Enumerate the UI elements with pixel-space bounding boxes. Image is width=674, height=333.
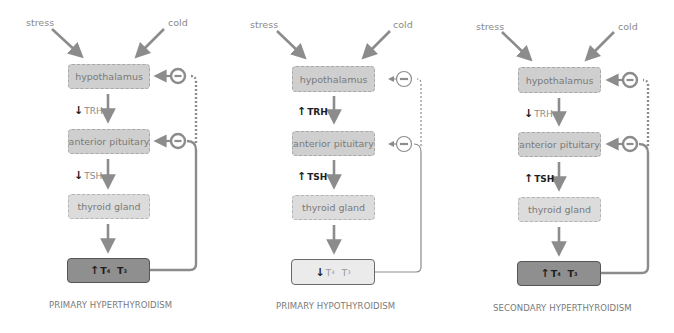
hypothalamus-node: hypothalamus bbox=[68, 64, 150, 89]
feedback-line-hypothalamus bbox=[643, 80, 648, 146]
tsh-change-icon: ↑ bbox=[524, 172, 533, 185]
stress-arrow bbox=[502, 32, 527, 56]
t4-t3-change-icon: ↓ bbox=[315, 266, 324, 279]
feedback-line-hypothalamus bbox=[417, 79, 421, 146]
stress-arrow bbox=[52, 29, 78, 53]
panel-secondary-hyperthyroidism: stress cold hypothalamus ↓TRH anterior p… bbox=[450, 0, 674, 333]
stress-label: stress bbox=[476, 21, 504, 32]
t4-t3-output-node: ↑T4T3 bbox=[517, 261, 601, 286]
anterior-pituitary-node: anterior pituitary bbox=[68, 129, 150, 154]
flow-arrows bbox=[0, 0, 230, 333]
thyroid-gland-node: thyroid gland bbox=[292, 195, 375, 220]
hypothalamus-node: hypothalamus bbox=[518, 67, 601, 93]
panel-caption: SECONDARY HYPERTHYROIDISM bbox=[493, 303, 632, 313]
cold-label: cold bbox=[618, 21, 638, 32]
trh-label: ↑TRH bbox=[297, 105, 328, 118]
thyroid-gland-node: thyroid gland bbox=[518, 197, 601, 222]
panel-primary-hypothyroidism: stress cold hypothalamus ↑TRH anterior p… bbox=[230, 0, 450, 333]
t4-t3-change-icon: ↑ bbox=[540, 267, 549, 280]
stress-label: stress bbox=[250, 19, 278, 30]
cold-label: cold bbox=[393, 19, 413, 30]
panel-primary-hyperthyroidism: stress cold hypothalamus ↓TRH anterior p… bbox=[0, 0, 230, 333]
trh-change-icon: ↓ bbox=[524, 107, 533, 120]
tsh-change-icon: ↓ bbox=[74, 169, 83, 182]
anterior-pituitary-node: anterior pituitary bbox=[292, 131, 375, 156]
cold-arrow bbox=[367, 31, 390, 54]
cold-arrow bbox=[140, 29, 164, 53]
t4-t3-output-node: ↓T4T3 bbox=[291, 259, 375, 285]
thyroid-gland-node: thyroid gland bbox=[68, 194, 150, 219]
panel-caption: PRIMARY HYPERTHYROIDISM bbox=[49, 300, 172, 310]
cold-label: cold bbox=[168, 17, 188, 28]
t4-t3-change-icon: ↑ bbox=[90, 264, 99, 277]
feedback-line-pituitary bbox=[375, 144, 421, 272]
t4-t3-output-node: ↑T4T3 bbox=[67, 258, 150, 283]
stress-label: stress bbox=[26, 17, 54, 28]
tsh-label: ↑TSH bbox=[524, 172, 554, 185]
feedback-line-pituitary bbox=[149, 141, 196, 270]
tsh-change-icon: ↑ bbox=[297, 170, 306, 183]
trh-label: ↓TRH bbox=[524, 107, 553, 120]
tsh-label: ↓TSH bbox=[74, 169, 102, 182]
tsh-label: ↑TSH bbox=[297, 170, 327, 183]
trh-change-icon: ↓ bbox=[74, 104, 83, 117]
trh-change-icon: ↑ bbox=[297, 105, 306, 118]
anterior-pituitary-node: anterior pituitary bbox=[518, 132, 601, 157]
trh-label: ↓TRH bbox=[74, 104, 103, 117]
feedback-line-pituitary bbox=[601, 144, 648, 273]
stress-arrow bbox=[277, 31, 301, 54]
cold-arrow bbox=[590, 32, 614, 56]
hypothalamus-node: hypothalamus bbox=[292, 66, 375, 92]
panel-caption: PRIMARY HYPOTHYROIDISM bbox=[276, 301, 395, 311]
feedback-line-hypothalamus bbox=[191, 76, 196, 143]
